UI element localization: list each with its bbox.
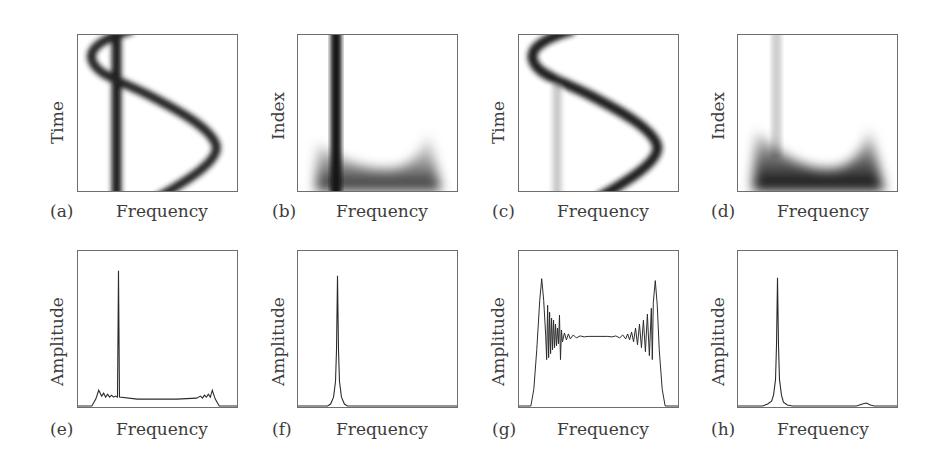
panel-h-spectrum: [738, 251, 897, 407]
panel-c-ylabel: Time: [488, 101, 508, 144]
panel-d-xlabel: Frequency: [777, 201, 869, 221]
panel-g-tag: (g): [492, 419, 516, 439]
panel-a-xlabel: Frequency: [116, 201, 208, 221]
panel-e-ylabel: Amplitude: [47, 297, 67, 386]
panel-g-plot: [518, 250, 679, 408]
panel-g-ylabel: Amplitude: [488, 297, 508, 386]
panel-f-xlabel: Frequency: [336, 419, 428, 439]
panel-d-heatmap: [738, 35, 897, 191]
panel-f-plot: [297, 250, 458, 408]
panel-g-xlabel: Frequency: [557, 419, 649, 439]
panel-g-spectrum: [519, 251, 678, 407]
panel-b-xlabel: Frequency: [336, 201, 428, 221]
panel-a-plot: [77, 34, 238, 192]
panel-c-plot: [518, 34, 679, 192]
panel-d-plot: [737, 34, 898, 192]
panel-e-plot: [77, 250, 238, 408]
panel-d-tag: (d): [711, 201, 735, 221]
panel-c-xlabel: Frequency: [557, 201, 649, 221]
panel-e-spectrum: [78, 251, 237, 407]
panel-b-plot: [297, 34, 458, 192]
panel-c-tag: (c): [492, 201, 515, 221]
panel-a-heatmap: [78, 35, 237, 191]
panel-e-tag: (e): [50, 419, 73, 439]
panel-h-plot: [737, 250, 898, 408]
panel-f-ylabel: Amplitude: [268, 297, 288, 386]
panel-b-ylabel: Index: [268, 92, 288, 140]
panel-e-xlabel: Frequency: [116, 419, 208, 439]
panel-c-heatmap: [519, 35, 678, 191]
panel-h-xlabel: Frequency: [777, 419, 869, 439]
panel-f-tag: (f): [272, 419, 292, 439]
panel-b-tag: (b): [272, 201, 296, 221]
panel-f-spectrum: [298, 251, 457, 407]
panel-h-ylabel: Amplitude: [708, 297, 728, 386]
panel-b-heatmap: [298, 35, 457, 191]
panel-h-tag: (h): [711, 419, 735, 439]
panel-a-ylabel: Time: [47, 101, 67, 144]
panel-d-ylabel: Index: [708, 92, 728, 140]
panel-a-tag: (a): [50, 201, 73, 221]
